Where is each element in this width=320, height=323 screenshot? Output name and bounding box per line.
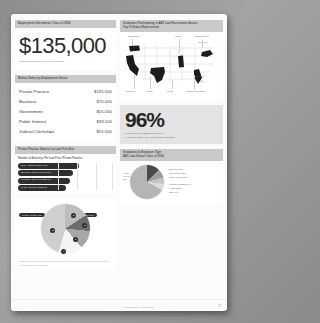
sector-value: $55,000: [96, 129, 112, 134]
median-salary-figure: $135,000: [15, 28, 116, 57]
salary-panel-header: Employment Information: Class of 2014: [15, 20, 116, 28]
firm-size-subcaption: Number of Attorneys Per Law Firm / Priva…: [15, 154, 116, 162]
sector-value: $55,000: [96, 109, 112, 114]
pie-value-marker: 52: [50, 228, 55, 233]
page-footer: ABC Law School Annual Report 17: [11, 299, 227, 311]
employment-rate-value: 96%: [125, 110, 218, 130]
sector-label: Public Interest: [19, 119, 46, 124]
employment-pie-panel: Private Practice 52% Business 18% Govern…: [15, 199, 116, 271]
employment-pie-footnote: Employment status based on graduates rep…: [15, 257, 116, 271]
employer-pie-chart: [130, 165, 164, 199]
list-item: Business $70,000: [19, 97, 112, 107]
pie-value-marker: 7: [61, 249, 66, 254]
firm-size-bar-chart: 501+ Attorneys $160,000 251-500 Attorney…: [15, 162, 116, 194]
us-map-area: Washington Illinois Massachusetts New Yo…: [120, 35, 223, 97]
list-item: Government $55,000: [19, 107, 112, 117]
legend-item: Other 1%: [169, 190, 191, 194]
pie-value-marker: 12: [82, 223, 87, 228]
map-callout-california: California: [126, 90, 135, 92]
employment-pie-wrap: Private Practice 52% Business 18% Govern…: [15, 199, 116, 257]
page-number: 17: [218, 304, 221, 308]
sector-breakdown-header: Median Salary by Employment Sector: [15, 75, 116, 83]
footer-text: ABC Law School Annual Report: [123, 306, 154, 308]
report-page: Employment Information: Class of 2014 $1…: [11, 14, 227, 311]
map-panel: Graduates Participating in ABC Law Recru…: [120, 20, 223, 100]
sector-label: Judicial Clerkships: [19, 129, 55, 134]
right-column: Graduates Participating in ABC Law Recru…: [120, 20, 223, 209]
map-callout-dc: District of Columbia: [186, 90, 205, 92]
map-callout-florida: Florida: [196, 80, 203, 82]
list-item: Private Practice $135,000: [19, 87, 112, 97]
legend-item: Public Interest 11%: [169, 175, 191, 179]
salary-panel: Employment Information: Class of 2014 $1…: [15, 20, 116, 70]
stat-box: 96% Percentage of Graduates Employed or …: [120, 105, 223, 145]
sector-salary-list: Private Practice $135,000 Business $70,0…: [15, 83, 116, 141]
map-callout-washington: Washington: [128, 35, 139, 37]
legend-group-primary: Business 18% Government 12% Public Inter…: [169, 167, 191, 180]
map-header-line2: Top 10 States Represented: [123, 26, 220, 30]
pie-value-marker: 18: [71, 213, 76, 218]
stat-caption-line2: or in further study, nine months after g…: [125, 136, 218, 140]
median-salary-caption: Median Starting Salary (Private Practice…: [15, 57, 116, 70]
pie-value-marker: 11: [73, 237, 78, 242]
employment-rate-caption: Percentage of Graduates Employed or in f…: [125, 129, 218, 140]
legend-group-secondary: Judicial Clerkships 7% Academia 2% Other…: [169, 182, 191, 195]
sector-value: $70,000: [96, 99, 112, 104]
list-item: Judicial Clerkships $55,000: [19, 126, 112, 136]
sector-value: $39,500: [96, 119, 112, 124]
firm-size-panel: Private Practice Salaries by Law Firm Si…: [15, 146, 116, 194]
employment-rate-panel: 96% Percentage of Graduates Employed or …: [120, 105, 223, 145]
map-callout-georgia: Georgia: [196, 75, 204, 77]
employer-type-header: Graduates by Employer Type ABC Law Schoo…: [120, 149, 223, 161]
map-panel-header: Graduates Participating in ABC Law Recru…: [120, 20, 223, 32]
sector-label: Business: [19, 99, 36, 104]
employer-type-panel: Graduates by Employer Type ABC Law Schoo…: [120, 149, 223, 204]
employer-header-line2: ABC Law School Class of 2014: [123, 155, 220, 159]
legend-item: Private Practice 52%: [19, 213, 45, 218]
employer-pie-wrap: Private Practice 52% Business 18% Govern…: [120, 161, 223, 204]
firm-size-header: Private Practice Salaries by Law Firm Si…: [15, 146, 116, 154]
chart-gridlines: [18, 163, 113, 190]
map-callout-texas: Texas: [167, 90, 173, 92]
map-callout-arizona: Arizona: [145, 90, 152, 92]
map-callout-illinois: Illinois: [175, 35, 181, 37]
map-callout-massachusetts: Massachusetts: [194, 35, 209, 37]
sector-breakdown-panel: Median Salary by Employment Sector Priva…: [15, 75, 116, 141]
left-column: Employment Information: Class of 2014 $1…: [15, 20, 116, 276]
sector-value: $135,000: [94, 89, 112, 94]
sector-label: Private Practice: [19, 89, 49, 94]
list-item: Public Interest $39,500: [19, 116, 112, 126]
employer-pie-legend: Business 18% Government 12% Public Inter…: [169, 167, 191, 197]
employment-pie-chart: 52 18 12 11 7: [41, 204, 90, 253]
sector-label: Government: [19, 109, 43, 114]
